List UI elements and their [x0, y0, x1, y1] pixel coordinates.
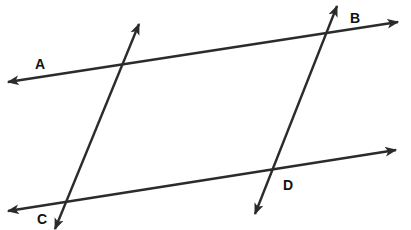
point-label-c: C [37, 212, 47, 226]
top-line [8, 22, 398, 82]
left-transversal [55, 24, 139, 229]
point-label-a: A [35, 57, 45, 71]
point-label-b: B [350, 11, 360, 25]
point-label-d: D [283, 178, 293, 192]
diagram-canvas [0, 0, 411, 230]
